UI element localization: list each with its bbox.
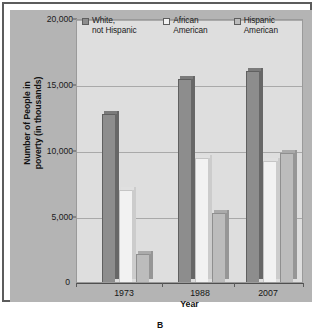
bar-side-face <box>225 210 229 279</box>
bar-hispanic-american-1988 <box>212 213 225 282</box>
bar-white-not-hispanic-2007 <box>246 71 259 282</box>
bar-face <box>246 71 259 282</box>
x-axis-line <box>76 283 303 284</box>
bar-white-not-hispanic-1973 <box>102 114 115 282</box>
bar-face <box>195 158 208 282</box>
bar-face <box>102 114 115 282</box>
x-tick-mark-2 <box>234 283 235 287</box>
y-tick-label-zero: 0 <box>56 277 70 287</box>
bar-face <box>280 153 293 282</box>
legend-swatch-african-american <box>163 18 170 25</box>
figure-container: Number of People in poverty (in thousand… <box>0 0 320 336</box>
bar-side-face <box>293 150 297 279</box>
legend-swatch-white-not-hispanic <box>82 18 89 25</box>
bar-group-1988 <box>178 20 230 282</box>
bar-group-1973 <box>102 20 154 282</box>
plot-area <box>76 19 303 283</box>
bar-side-face <box>149 251 153 279</box>
bar-face <box>136 254 149 282</box>
bar-face <box>178 79 191 282</box>
legend-label-hispanic-american: Hispanic American <box>244 16 278 35</box>
y-tick-label-15000: 15,000 <box>33 80 73 90</box>
chart-legend: White, not HispanicAfrican AmericanHispa… <box>82 16 304 48</box>
plot-inner <box>77 20 302 282</box>
legend-swatch-hispanic-american <box>234 18 241 25</box>
bar-face <box>212 213 225 282</box>
bar-face <box>119 190 132 282</box>
legend-entry-african-american: African American <box>163 16 223 35</box>
x-tick-label-2007: 2007 <box>243 288 293 298</box>
bar-white-not-hispanic-1988 <box>178 79 191 282</box>
x-axis-title: Year <box>76 299 303 309</box>
bar-hispanic-american-1973 <box>136 254 149 282</box>
bar-face <box>263 161 276 282</box>
x-tick-mark-3 <box>303 283 304 287</box>
bar-group-2007 <box>246 20 298 282</box>
x-tick-mark-1 <box>162 283 163 287</box>
bar-african-american-1973 <box>119 190 132 282</box>
bar-african-american-2007 <box>263 161 276 282</box>
legend-entry-white-not-hispanic: White, not Hispanic <box>82 16 153 35</box>
legend-label-african-american: African American <box>173 16 207 35</box>
x-tick-label-1988: 1988 <box>175 288 225 298</box>
bar-hispanic-american-2007 <box>280 153 293 282</box>
y-tick-label-10000: 10,000 <box>33 146 73 156</box>
y-axis-ticks: 5,00010,00015,00020,000 <box>30 19 73 283</box>
legend-label-white-not-hispanic: White, not Hispanic <box>92 16 136 35</box>
x-tick-label-1973: 1973 <box>99 288 149 298</box>
figure-caption: B <box>0 320 320 330</box>
bar-african-american-1988 <box>195 158 208 282</box>
y-tick-label-20000: 20,000 <box>33 14 73 24</box>
x-tick-mark-0 <box>76 283 77 287</box>
legend-entry-hispanic-american: Hispanic American <box>234 16 294 35</box>
y-tick-label-5000: 5,000 <box>33 212 73 222</box>
